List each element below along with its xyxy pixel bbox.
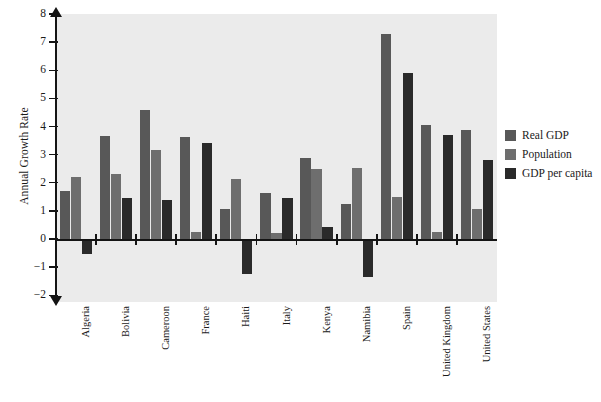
- bar: [242, 239, 252, 274]
- bar: [180, 137, 190, 239]
- bar: [282, 198, 292, 239]
- legend-item: GDP per capita: [505, 166, 592, 180]
- x-tick-mark: [336, 234, 338, 245]
- bar: [322, 227, 332, 239]
- bar: [140, 110, 150, 239]
- legend-swatch-icon: [505, 149, 516, 160]
- bar: [231, 179, 241, 239]
- bar: [191, 232, 201, 239]
- y-tick-label: 7: [0, 36, 46, 48]
- y-tick-mark: [49, 98, 58, 99]
- bar: [82, 239, 92, 254]
- legend-item: Population: [505, 147, 592, 161]
- x-axis-label: Namibia: [361, 306, 372, 342]
- bar-chart: 876543210−1−2 Annual Growth Rate Algeria…: [0, 0, 601, 402]
- y-tick-mark: [49, 210, 58, 211]
- legend-item: Real GDP: [505, 128, 592, 142]
- y-tick-mark: [49, 41, 58, 42]
- bar: [111, 174, 121, 239]
- zero-baseline: [56, 239, 497, 241]
- y-tick-mark: [49, 182, 58, 183]
- y-tick-mark: [49, 154, 58, 155]
- bar: [100, 136, 110, 240]
- y-axis-arrow-down-icon: [50, 296, 62, 306]
- x-axis-label: Italy: [281, 306, 292, 325]
- legend-swatch-icon: [505, 130, 516, 141]
- bar: [202, 143, 212, 239]
- y-tick-mark: [49, 13, 58, 14]
- y-axis-arrow-up-icon: [50, 7, 62, 17]
- y-tick-label: −1: [0, 261, 46, 273]
- bar: [461, 130, 471, 239]
- x-tick-mark: [296, 234, 298, 245]
- legend-swatch-icon: [505, 168, 516, 179]
- bar: [60, 191, 70, 239]
- bar: [381, 34, 391, 239]
- x-axis-label: France: [200, 306, 211, 335]
- x-tick-mark: [256, 234, 258, 245]
- bar: [363, 239, 373, 277]
- x-tick-mark: [215, 234, 217, 245]
- y-tick-label: 8: [0, 8, 46, 20]
- bar: [392, 197, 402, 239]
- y-tick-mark: [49, 295, 58, 296]
- x-tick-mark: [95, 234, 97, 245]
- x-tick-mark: [135, 234, 137, 245]
- x-axis-label: United States: [481, 306, 492, 362]
- bar: [162, 200, 172, 239]
- legend-label: GDP per capita: [522, 167, 592, 179]
- y-axis-title: Annual Growth Rate: [18, 76, 30, 236]
- bar: [432, 232, 442, 239]
- x-axis-label: Cameroon: [160, 306, 171, 350]
- bar: [260, 193, 270, 239]
- bar: [341, 204, 351, 239]
- y-tick-mark: [49, 126, 58, 127]
- legend: Real GDPPopulationGDP per capita: [505, 128, 592, 185]
- plot-area: [56, 14, 497, 302]
- bar: [220, 209, 230, 239]
- bar: [483, 160, 493, 239]
- bar: [352, 168, 362, 239]
- x-axis-label: United Kingdom: [441, 306, 452, 377]
- x-tick-mark: [376, 234, 378, 245]
- bar: [300, 158, 310, 239]
- bar: [443, 135, 453, 239]
- x-tick-mark: [175, 234, 177, 245]
- bar: [421, 125, 431, 239]
- x-tick-mark: [416, 234, 418, 245]
- y-tick-mark: [49, 70, 58, 71]
- y-tick-mark: [49, 266, 58, 267]
- x-axis-label: Haiti: [240, 306, 251, 327]
- bar: [71, 177, 81, 239]
- bar: [311, 169, 321, 239]
- x-axis-label: Bolivia: [120, 306, 131, 337]
- bars-layer: [56, 14, 497, 302]
- x-axis-label: Kenya: [321, 306, 332, 333]
- legend-label: Population: [522, 148, 572, 160]
- bar: [122, 198, 132, 239]
- y-tick-label: −2: [0, 289, 46, 301]
- bar: [151, 150, 161, 239]
- x-axis-label: Algeria: [80, 306, 91, 338]
- y-axis-line: [55, 14, 57, 302]
- legend-label: Real GDP: [522, 129, 569, 141]
- x-tick-mark: [456, 234, 458, 245]
- y-tick-label: 6: [0, 64, 46, 76]
- bar: [403, 73, 413, 239]
- x-axis-label: Spain: [401, 306, 412, 330]
- bar: [472, 209, 482, 239]
